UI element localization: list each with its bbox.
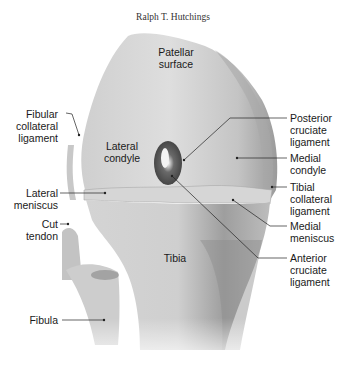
label-cut-tendon: Cut tendon <box>0 218 58 242</box>
label-posterior-cruciate-ligament: Posterior cruciate ligament <box>290 112 346 148</box>
label-tibial-collateral-ligament: Tibial collateral ligament <box>290 181 346 217</box>
menisci-band <box>84 185 272 204</box>
label-fibular-collateral-ligament: Fibular collateral ligament <box>0 108 58 144</box>
label-lateral-condyle: Lateral condyle <box>92 140 152 164</box>
label-fibula: Fibula <box>0 314 58 326</box>
label-medial-condyle: Medial condyle <box>290 152 346 176</box>
label-medial-meniscus: Medial meniscus <box>290 220 346 244</box>
anatomy-figure: Ralph T. Hutchings <box>0 0 346 370</box>
label-tibia: Tibia <box>155 252 195 264</box>
label-patellar-surface: Patellar surface <box>146 46 206 70</box>
label-anterior-cruciate-ligament: Anterior cruciate ligament <box>290 252 346 288</box>
label-lateral-meniscus: Lateral meniscus <box>0 187 58 211</box>
